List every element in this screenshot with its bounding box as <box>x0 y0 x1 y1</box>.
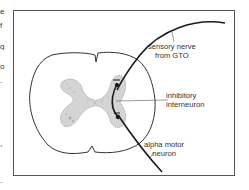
leader-line-sensory <box>172 32 174 42</box>
label-sensory-nerve-line1: sensory nerve <box>148 42 196 51</box>
label-alpha-motor-neuron: alpha motor neuron <box>144 140 184 158</box>
label-inhibitory-line1: inhibitory <box>166 91 204 100</box>
label-sensory-nerve-line2: from GTO <box>148 51 196 60</box>
spinal-cord-diagram <box>0 0 249 190</box>
label-sensory-nerve: sensory nerve from GTO <box>148 42 196 60</box>
label-inhibitory-interneuron: inhibitory interneuron <box>166 91 204 109</box>
label-inhibitory-line2: interneuron <box>166 100 204 109</box>
label-alpha-motor-line2: neuron <box>144 149 184 158</box>
label-alpha-motor-line1: alpha motor <box>144 140 184 149</box>
